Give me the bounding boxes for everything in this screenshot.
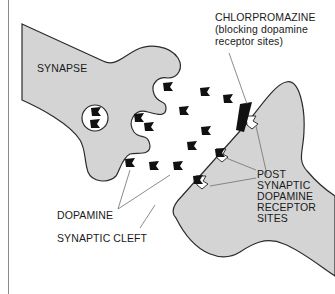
dopamine-molecule xyxy=(223,94,233,103)
synapse-label: SYNAPSE xyxy=(37,63,87,75)
chlorpromazine-label-line1: CHLORPROMAZINE xyxy=(215,12,316,24)
dopamine-molecule xyxy=(144,122,154,131)
dopamine-molecule xyxy=(187,141,197,150)
synaptic-cleft-label: SYNAPTIC CLEFT xyxy=(57,233,147,245)
dopamine-molecule xyxy=(179,106,189,115)
dopamine-molecule xyxy=(173,161,183,170)
chlorpromazine-label-line3: receptor sites) xyxy=(215,36,283,48)
dopamine-molecule xyxy=(125,158,135,167)
dopamine-molecule xyxy=(201,126,211,135)
dopamine-molecule xyxy=(163,82,173,91)
dopamine-label: DOPAMINE xyxy=(57,210,113,222)
synapse-illustration xyxy=(0,0,335,294)
presynaptic-terminal xyxy=(22,24,180,181)
receptor-label-line5: SITES xyxy=(257,213,288,225)
dopamine-molecule xyxy=(134,113,144,122)
chlorpromazine-label-line2: (blocking dopamine xyxy=(215,24,308,36)
dopamine-molecule xyxy=(200,87,210,96)
diagram-frame: SYNAPSE CHLORPROMAZINE (blocking dopamin… xyxy=(0,0,335,294)
dopamine-molecule xyxy=(149,161,159,170)
